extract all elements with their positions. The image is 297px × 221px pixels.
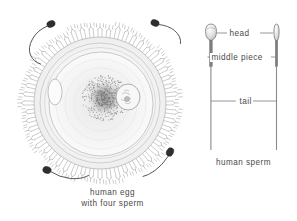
figure-human-egg-and-sperm: head middle piece tail human egg with fo… — [0, 0, 297, 221]
nucleolus — [124, 96, 129, 101]
egg-caption-line-1: human egg — [0, 188, 225, 199]
label-middle-piece: middle piece — [210, 53, 264, 62]
sperm-flat-view — [206, 24, 217, 150]
sperm-flat-head — [206, 24, 217, 41]
sperm-lower-right — [143, 147, 175, 177]
sperm-diagram — [206, 24, 280, 150]
egg-illustration — [18, 19, 183, 185]
sperm-edge-head — [274, 24, 279, 41]
polar-body — [48, 79, 62, 105]
sperm-upper-right — [150, 19, 181, 44]
leader-lines — [208, 33, 277, 101]
label-head: head — [228, 29, 251, 38]
label-tail: tail — [238, 97, 253, 106]
egg-caption-line-2: with four sperm — [0, 199, 225, 210]
egg-caption: human egg with four sperm — [0, 188, 225, 209]
sperm-edge-view — [274, 24, 279, 150]
sperm-edge-middle-piece — [275, 41, 277, 67]
sperm-caption: human sperm — [190, 158, 297, 169]
